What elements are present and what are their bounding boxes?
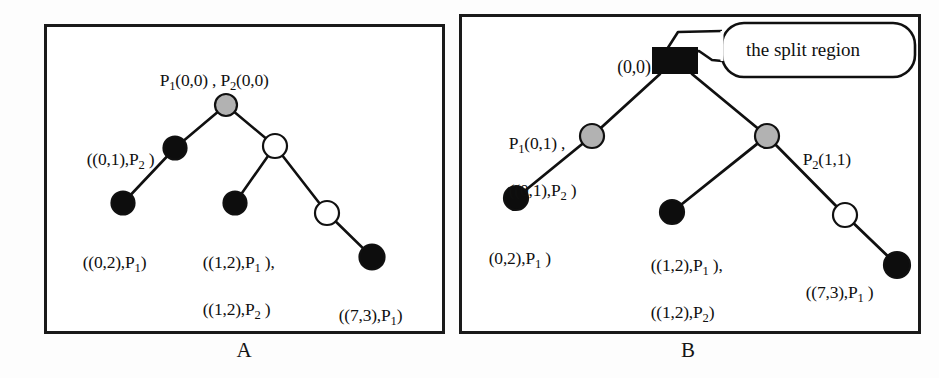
label-a-mid-leaf: ((1,2),P1 ), ((1,2),P2 ) (186, 229, 275, 346)
label-b-left-child: P1(0,1) , ((0,1),P2 ) (492, 110, 577, 227)
panel-a-caption: A (214, 338, 274, 363)
label-b-root: (0,0) (600, 33, 651, 101)
label-a-root: P1(0,0) , P2(0,0) (143, 47, 269, 116)
panel-b-caption: B (658, 338, 718, 363)
label-a-left-child: ((0,1),P2 ) (70, 126, 155, 195)
label-b-right-child: P2(1,1) (786, 126, 851, 195)
split-region-callout-label: the split region (746, 39, 860, 61)
label-b-mid-leaf: ((1,2),P1 ), ((1,2),P2) (634, 232, 723, 349)
label-b-right-leaf: ((7,3),P1 ) (789, 259, 874, 328)
label-a-left-leaf: ((0,2),P1) (66, 229, 146, 298)
figure-root: P1(0,0) , P2(0,0) ((0,1),P2 ) ((0,2),P1)… (0, 0, 939, 378)
label-a-right-leaf: ((7,3),P1) (322, 282, 402, 351)
label-b-left-leaf: (0,2),P1 ) (472, 225, 551, 294)
